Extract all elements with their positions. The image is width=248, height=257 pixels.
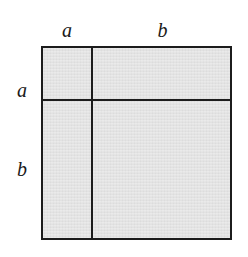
vertical-divider	[91, 48, 93, 238]
column-label-b: b	[93, 20, 232, 40]
horizontal-divider	[43, 99, 230, 101]
column-label-a: a	[41, 20, 93, 40]
binomial-square-figure: a b a b	[0, 0, 248, 257]
paper-texture-overlay	[43, 48, 230, 238]
outer-square	[41, 46, 232, 240]
row-label-b: b	[10, 99, 34, 240]
